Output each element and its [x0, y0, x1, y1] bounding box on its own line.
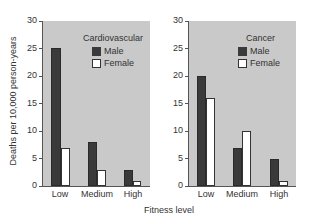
y-tick [185, 21, 188, 22]
y-tick [39, 103, 42, 104]
y-tick [185, 76, 188, 77]
category-label-medium: Medium [77, 189, 117, 199]
chart-title: Cardiovascular [83, 33, 143, 43]
legend-label-male: Male [104, 46, 124, 56]
y-tick [185, 158, 188, 159]
bar-male-medium [88, 142, 97, 186]
bar-female-high [133, 181, 141, 186]
category-label-low: Low [186, 189, 226, 199]
y-tick-label: 10 [21, 126, 37, 135]
legend-label-male: Male [250, 46, 270, 56]
legend-label-female: Female [104, 58, 134, 68]
bar-male-low [197, 76, 206, 186]
y-tick [39, 76, 42, 77]
y-tick-label: 10 [167, 126, 183, 135]
y-tick-label: 15 [167, 99, 183, 108]
category-label-high: High [259, 189, 299, 199]
legend-swatch-female [238, 59, 247, 68]
y-tick [39, 131, 42, 132]
y-tick-label: 5 [21, 154, 37, 163]
y-tick [39, 48, 42, 49]
y-tick [185, 131, 188, 132]
y-tick [39, 186, 42, 187]
bar-male-high [270, 159, 279, 186]
y-tick [185, 186, 188, 187]
bar-female-medium [242, 131, 251, 186]
y-axis-label: Deaths per 10,000 person-years [8, 31, 18, 171]
chart-title: Cancer [246, 33, 275, 43]
bar-female-medium [97, 170, 106, 186]
y-tick-label: 25 [21, 44, 37, 53]
category-label-low: Low [40, 189, 80, 199]
y-tick [185, 103, 188, 104]
bar-male-low [51, 48, 61, 186]
legend-swatch-male [92, 47, 101, 56]
y-axis [42, 21, 43, 186]
y-tick-label: 30 [167, 16, 183, 25]
bar-male-medium [233, 148, 242, 186]
category-label-medium: Medium [222, 189, 262, 199]
legend-label-female: Female [250, 58, 280, 68]
y-tick-label: 15 [21, 99, 37, 108]
bar-female-low [206, 98, 215, 186]
y-tick-label: 20 [21, 71, 37, 80]
x-axis [188, 186, 296, 187]
x-axis [42, 186, 150, 187]
y-tick-label: 0 [21, 181, 37, 190]
category-label-high: High [113, 189, 153, 199]
legend-swatch-male [238, 47, 247, 56]
y-tick [185, 48, 188, 49]
y-tick-label: 25 [167, 44, 183, 53]
y-tick-label: 5 [167, 154, 183, 163]
bar-female-high [279, 181, 288, 186]
y-tick [39, 21, 42, 22]
y-tick-label: 30 [21, 16, 37, 25]
y-tick [39, 158, 42, 159]
legend-swatch-female [92, 59, 101, 68]
x-axis-label: Fitness level [144, 205, 194, 215]
y-axis [188, 21, 189, 186]
y-tick-label: 0 [167, 181, 183, 190]
y-tick-label: 20 [167, 71, 183, 80]
bar-female-low [61, 148, 70, 186]
bar-male-high [124, 170, 133, 186]
